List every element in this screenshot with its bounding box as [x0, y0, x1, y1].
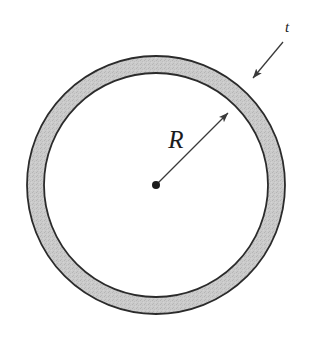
radius-label: R — [167, 126, 183, 153]
figure-container: R t — [0, 0, 313, 346]
center-point-dot — [152, 181, 160, 189]
ring-cross-section-diagram: R t — [0, 0, 313, 346]
